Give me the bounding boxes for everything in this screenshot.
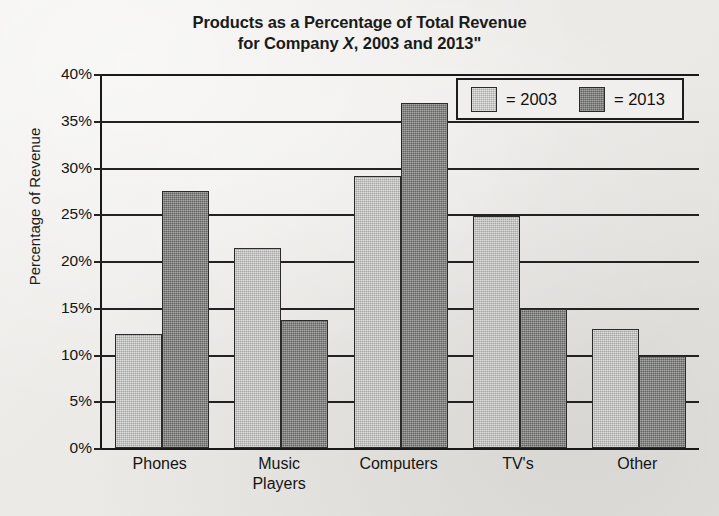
x-axis-tick-label: TV's xyxy=(502,454,534,474)
chart-legend: = 2003 = 2013 xyxy=(456,78,684,120)
y-axis-tick-mark xyxy=(94,355,102,357)
legend-item-2013: = 2013 xyxy=(579,87,665,112)
bar-tv's-2013 xyxy=(520,309,567,448)
chart-title-line-2-after: , 2003 and 2013" xyxy=(354,34,481,52)
bar-phones-2003 xyxy=(115,334,162,448)
y-axis-tick-label: 0% xyxy=(36,439,92,457)
chart-title-line-1: Products as a Percentage of Total Revenu… xyxy=(193,13,527,31)
bar-music-players-2013 xyxy=(281,320,328,448)
y-axis-tick-label: 10% xyxy=(36,346,92,364)
y-axis-tick-mark xyxy=(94,121,102,123)
y-axis-tick-mark xyxy=(94,74,102,76)
y-axis-tick-mark xyxy=(94,448,102,450)
y-axis-tick-mark xyxy=(94,401,102,403)
bar-computers-2013 xyxy=(401,103,448,448)
bar-chart: Products as a Percentage of Total Revenu… xyxy=(0,0,719,516)
y-axis-tick-label: 35% xyxy=(36,112,92,130)
x-axis-tick-label: Other xyxy=(617,454,657,474)
y-axis-tick-mark xyxy=(94,214,102,216)
legend-swatch-2013-icon xyxy=(579,87,605,112)
legend-label-2003: = 2003 xyxy=(506,90,557,109)
y-axis-tick-labels: 0%5%10%15%20%25%30%35%40% xyxy=(30,0,92,516)
legend-swatch-2003-icon xyxy=(471,87,497,112)
y-axis-tick-label: 20% xyxy=(36,252,92,270)
y-axis-tick-mark xyxy=(94,168,102,170)
chart-title: Products as a Percentage of Total Revenu… xyxy=(0,12,719,54)
chart-title-line-2-before: for Company xyxy=(238,34,343,52)
plot-top-border xyxy=(102,74,699,76)
legend-item-2003: = 2003 xyxy=(471,87,557,112)
x-axis-tick-label: Phones xyxy=(133,454,187,474)
chart-title-company-symbol: X xyxy=(343,34,354,52)
y-axis-tick-mark xyxy=(94,308,102,310)
bar-computers-2003 xyxy=(354,176,401,448)
bar-other-2003 xyxy=(592,329,639,448)
y-axis-tick-label: 25% xyxy=(36,205,92,223)
bar-music-players-2003 xyxy=(234,248,281,448)
y-axis-tick-label: 40% xyxy=(36,65,92,83)
y-axis-tick-label: 15% xyxy=(36,299,92,317)
bar-other-2013 xyxy=(639,356,686,448)
x-axis-tick-label: Music Players xyxy=(252,454,305,494)
bar-tv's-2003 xyxy=(473,216,520,448)
y-axis-tick-label: 5% xyxy=(36,392,92,410)
plot-area xyxy=(100,74,699,450)
y-axis-tick-mark xyxy=(94,261,102,263)
y-axis-tick-label: 30% xyxy=(36,159,92,177)
bar-phones-2013 xyxy=(162,191,209,448)
legend-label-2013: = 2013 xyxy=(614,90,665,109)
x-axis-tick-label: Computers xyxy=(359,454,437,474)
